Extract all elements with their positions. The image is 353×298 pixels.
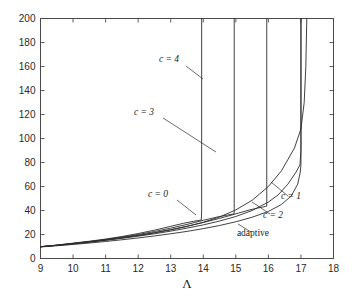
y-tick-label: 180: [19, 37, 36, 48]
curve-c-2: [41, 19, 301, 247]
curve-adaptive: [41, 19, 301, 247]
y-axis-tick-labels: 020406080100120140160180200: [19, 13, 36, 264]
leader-line: [186, 66, 203, 79]
x-tick-label: 16: [263, 263, 275, 274]
x-tick-label: 12: [133, 263, 145, 274]
x-tick-label: 15: [230, 263, 242, 274]
curve-c-0: [41, 19, 202, 247]
x-tick-label: 11: [100, 263, 111, 274]
curve-annotations: c = 4c = 3c = 0c = 1c = 2adaptive: [134, 54, 301, 238]
y-tick-label: 140: [19, 85, 36, 96]
x-tick-label: 9: [38, 263, 44, 274]
annotation-label: c = 0: [148, 189, 168, 199]
annotation-label: adaptive: [237, 228, 269, 238]
annotation-label: c = 1: [281, 191, 301, 201]
annotation-label: c = 3: [134, 107, 154, 117]
y-tick-label: 0: [30, 253, 36, 264]
y-tick-label: 120: [19, 109, 36, 120]
y-tick-label: 40: [24, 205, 36, 216]
chart-figure: 9101112131415161718 02040608010012014016…: [0, 0, 353, 298]
curve-c-3: [41, 19, 235, 247]
annotation-leader-lines: [163, 66, 288, 232]
annotation-label: c = 4: [159, 54, 179, 64]
y-tick-label: 160: [19, 61, 36, 72]
x-tick-label: 14: [198, 263, 210, 274]
x-axis-title: Λ: [182, 276, 192, 291]
line-chart: 9101112131415161718 02040608010012014016…: [0, 0, 353, 298]
x-tick-label: 10: [67, 263, 79, 274]
y-tick-label: 200: [19, 13, 36, 24]
x-axis-tick-labels: 9101112131415161718: [38, 263, 340, 274]
x-tick-label: 13: [165, 263, 177, 274]
curve-c-4: [41, 19, 267, 247]
x-tick-label: 17: [295, 263, 307, 274]
annotation-label: c = 2: [263, 210, 283, 220]
y-tick-label: 100: [19, 133, 36, 144]
leader-line: [163, 118, 216, 152]
y-tick-label: 80: [24, 157, 36, 168]
y-tick-label: 20: [24, 229, 36, 240]
y-tick-label: 60: [24, 181, 36, 192]
leader-line: [177, 200, 196, 215]
x-tick-label: 18: [328, 263, 340, 274]
